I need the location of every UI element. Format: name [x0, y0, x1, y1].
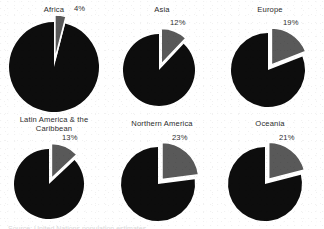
- pie-slice-highlight: [162, 143, 199, 180]
- pie-value-label: 4%: [74, 5, 85, 13]
- pie-graphic-latin-america: [0, 114, 108, 228]
- pie-value-label: 19%: [283, 19, 299, 27]
- pie-graphic-oceania: [216, 114, 324, 228]
- pie-value-label: 21%: [279, 134, 295, 142]
- pie-panel-asia: Asia 12%: [108, 0, 216, 114]
- pie-slice-remainder: [9, 22, 99, 112]
- pie-graphic-europe: [216, 0, 324, 114]
- pie-graphic-asia: [108, 0, 216, 114]
- pie-svg: [0, 0, 108, 114]
- pie-value-label: 13%: [62, 134, 78, 142]
- pie-slice-remainder: [123, 34, 195, 106]
- pie-svg: [0, 114, 108, 228]
- pie-panel-northern-america: Northern America 23%: [108, 114, 216, 228]
- pie-svg: [216, 114, 324, 228]
- caption-remnant: Source: United Nations population estima…: [8, 224, 238, 229]
- pie-value-label: 23%: [172, 134, 188, 142]
- pie-slice-remainder: [14, 149, 84, 219]
- pie-panel-latin-america-and-the-caribbean: Latin America & the Caribbean 13%: [0, 114, 108, 228]
- pie-panel-europe: Europe 19%: [216, 0, 324, 114]
- pie-svg: [108, 0, 216, 114]
- pie-chart-figure: Africa 4% Asia 12% Europe 19% Latin Amer…: [0, 0, 324, 229]
- pie-slice-highlight: [269, 142, 305, 179]
- pie-graphic-northern-america: [108, 114, 216, 228]
- pie-svg: [108, 114, 216, 228]
- pie-value-label: 12%: [170, 19, 186, 27]
- pie-svg: [216, 0, 324, 114]
- pie-graphic-africa: [0, 0, 108, 114]
- pie-panel-africa: Africa 4%: [0, 0, 108, 114]
- pie-panel-oceania: Oceania 21%: [216, 114, 324, 228]
